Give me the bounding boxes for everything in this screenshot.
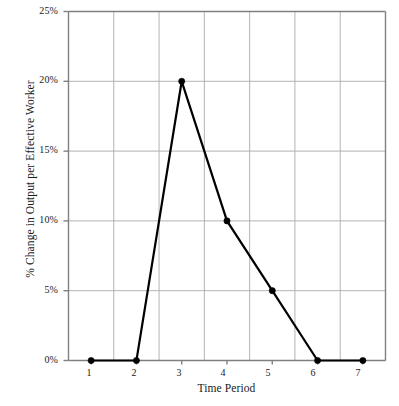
tick-marks bbox=[64, 12, 363, 365]
line-chart: % Change in Output per Effective Worker … bbox=[0, 0, 399, 406]
vertical-gridlines bbox=[114, 12, 340, 361]
axis-frame bbox=[69, 12, 386, 361]
plot-area bbox=[0, 0, 399, 406]
horizontal-gridlines bbox=[69, 81, 386, 290]
